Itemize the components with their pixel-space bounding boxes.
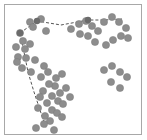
scatter-plot-canvas xyxy=(0,0,147,140)
scatter-point xyxy=(94,27,101,34)
scatter-point xyxy=(45,80,52,87)
dashed-path-layer xyxy=(20,19,122,128)
scatter-point xyxy=(34,104,41,111)
scatter-point xyxy=(50,126,57,133)
scatter-point xyxy=(27,68,34,75)
path-node-marker xyxy=(17,30,23,36)
scatter-point xyxy=(40,120,47,127)
scatter-point xyxy=(117,32,124,39)
scatter-point xyxy=(58,113,65,120)
scatter-point xyxy=(108,13,115,20)
scatter-point xyxy=(58,70,65,77)
scatter-point xyxy=(75,20,82,27)
scatter-point xyxy=(108,62,115,69)
scatter-point xyxy=(37,73,44,80)
scatter-point xyxy=(100,66,107,73)
scatter-point xyxy=(109,36,116,43)
scatter-point xyxy=(116,84,123,91)
scatter-point xyxy=(102,41,109,48)
scatter-point xyxy=(107,78,114,85)
scatter-point xyxy=(59,100,66,107)
scatter-point xyxy=(18,64,25,71)
scatter-point xyxy=(56,89,63,96)
scatter-point xyxy=(13,58,20,65)
scatter-point xyxy=(32,124,39,131)
bottom-margin xyxy=(0,136,147,140)
path-node-marker xyxy=(34,18,40,24)
scatter-point xyxy=(36,93,43,100)
right-margin xyxy=(143,0,147,140)
scatter-point xyxy=(26,40,33,47)
scatter-point xyxy=(12,43,19,50)
scatter-point xyxy=(42,27,49,34)
scatter-point xyxy=(116,68,123,75)
scatter-point xyxy=(48,92,55,99)
scatter-point xyxy=(84,32,91,39)
scatter-point xyxy=(44,68,51,75)
scatter-point xyxy=(115,18,122,25)
scatter-point xyxy=(67,25,74,32)
figure-root xyxy=(0,0,147,140)
scatter-point xyxy=(62,84,69,91)
path-node-marker xyxy=(85,17,91,23)
scatter-point xyxy=(100,18,107,25)
scatter-point xyxy=(123,73,130,80)
scatter-point xyxy=(43,99,50,106)
scatter-point xyxy=(29,23,36,30)
scatter-point xyxy=(66,93,73,100)
scatter-point xyxy=(122,24,129,31)
scatter-point xyxy=(22,54,29,61)
scatter-point xyxy=(19,37,26,44)
scatter-point xyxy=(88,22,95,29)
scatter-point xyxy=(31,56,38,63)
scatter-points-layer xyxy=(12,13,131,133)
scatter-point xyxy=(124,34,131,41)
scatter-point xyxy=(91,38,98,45)
scatter-point xyxy=(76,30,83,37)
